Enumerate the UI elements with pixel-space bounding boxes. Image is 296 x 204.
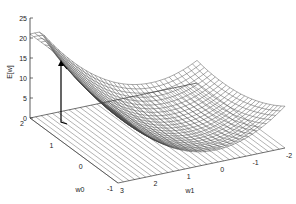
w1-tick-label: -1: [252, 159, 258, 166]
error-surface-plot: 0510152025 E[w] w0 w1 210-1 3210-1-2: [0, 0, 296, 204]
w0-tick-label: 2: [20, 120, 24, 127]
w0-tick-label: 0: [79, 163, 83, 170]
z-axis: 0510152025: [19, 15, 33, 122]
w1-axis-label: w1: [185, 187, 195, 194]
w1-tick-label: 2: [153, 180, 157, 187]
w0-tick-label: -1: [107, 185, 113, 192]
gradient-arrow: [58, 60, 67, 124]
w0-tick-label: 1: [49, 142, 53, 149]
w1-tick-label: 3: [120, 187, 124, 194]
z-tick-label: 25: [19, 15, 27, 22]
z-tick-label: 5: [23, 95, 27, 102]
w1-tick-label: 1: [187, 173, 191, 180]
w1-tick-label: 0: [220, 166, 224, 173]
w1-tick-label: -2: [286, 152, 292, 159]
w0-axis-label: w0: [75, 186, 85, 193]
z-tick-label: 20: [19, 35, 27, 42]
z-tick-label: 10: [19, 75, 27, 82]
surface-mesh: [30, 32, 285, 152]
z-axis-label: E[w]: [6, 65, 14, 79]
z-tick-label: 15: [19, 55, 27, 62]
